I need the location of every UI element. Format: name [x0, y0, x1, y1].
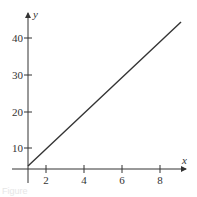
y-ticks: 10 20 30 40	[12, 32, 32, 154]
y-tick-label: 30	[12, 69, 24, 81]
x-tick-label: 2	[43, 174, 49, 186]
x-ticks: 2 4 6 8	[43, 165, 163, 186]
x-tick-label: 8	[157, 174, 163, 186]
y-tick-label: 20	[12, 106, 24, 118]
line-chart: x y 2 4 6 8 10 20 30 40	[0, 0, 197, 197]
x-tick-label: 4	[81, 174, 87, 186]
y-axis-label: y	[32, 8, 38, 20]
y-tick-label: 10	[12, 142, 24, 154]
data-line	[28, 22, 181, 166]
x-axis-label: x	[181, 154, 187, 166]
figure-caption: Figure	[2, 186, 28, 196]
x-tick-label: 6	[119, 174, 125, 186]
y-tick-label: 40	[12, 32, 24, 44]
